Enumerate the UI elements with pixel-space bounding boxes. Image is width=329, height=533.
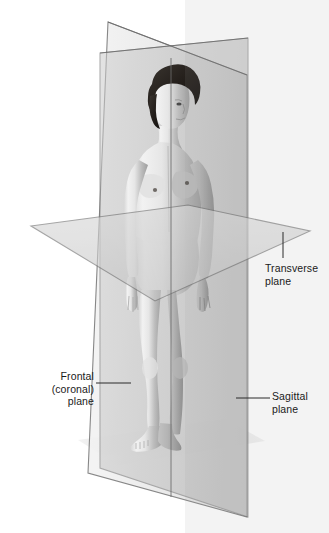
anatomical-planes-illustration: Frontal (coronal) plane Transverse plane… [0, 0, 329, 533]
label-transverse-plane: Transverse plane [265, 262, 327, 287]
label-sagittal-plane: Sagittal plane [272, 390, 328, 415]
figure-nipple-left [153, 188, 157, 192]
figure-knee-left [142, 357, 158, 379]
figure-eye [176, 103, 181, 106]
label-frontal-coronal-plane: Frontal (coronal) plane [8, 370, 94, 408]
